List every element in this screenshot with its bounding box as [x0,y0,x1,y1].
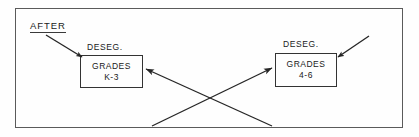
pointer-to-k3-box-arrow [46,35,82,57]
diagram-canvas: AFTER DESEG. DESEG. GRADES K-3 GRADES 4-… [0,0,419,137]
connector-layer [0,0,419,137]
pointer-to-46-box-arrow [338,36,369,57]
